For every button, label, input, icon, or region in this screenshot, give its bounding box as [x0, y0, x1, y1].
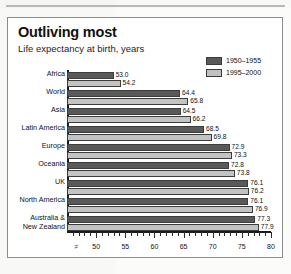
- bar-value-label: 76.1: [250, 179, 263, 186]
- x-tick-minor: [259, 232, 260, 236]
- bar-series-2: [67, 152, 232, 159]
- bar-value-label: 76.9: [255, 205, 268, 212]
- bar-value-label: 66.2: [193, 115, 206, 122]
- x-tick-minor: [195, 232, 196, 236]
- bar-series-1: [67, 90, 180, 97]
- x-tick-minor: [114, 232, 115, 236]
- x-tick-minor: [236, 232, 237, 236]
- bar-group: 72.873.8: [67, 160, 284, 178]
- bar-series-1: [67, 162, 229, 169]
- x-tick-minor: [265, 232, 266, 236]
- bar-value-label: 64.5: [183, 107, 196, 114]
- bar-row: UK76.176.2: [8, 178, 284, 196]
- x-tick-minor: [160, 232, 161, 236]
- x-tick-major: [213, 232, 214, 238]
- plot-area: Africa53.054.2World64.465.8Asia64.566.2L…: [8, 18, 284, 259]
- bar-group: 76.176.9: [67, 196, 284, 214]
- bar-row: Oceania72.873.8: [8, 160, 284, 178]
- x-tick-minor: [224, 232, 225, 236]
- x-tick-label: 50: [92, 243, 100, 250]
- bar-group: 64.566.2: [67, 106, 284, 124]
- bar-value-label: 54.2: [123, 79, 136, 86]
- bar-row: Europe72.973.3: [8, 142, 284, 160]
- bar-series-2: [67, 206, 253, 213]
- bar-rows: Africa53.054.2World64.465.8Asia64.566.2L…: [8, 70, 284, 232]
- bar-series-1: [67, 144, 230, 151]
- bar-value-label: 76.2: [251, 187, 264, 194]
- bar-value-label: 53.0: [116, 71, 129, 78]
- x-tick-major: [125, 232, 126, 238]
- bar-series-2: [67, 116, 191, 123]
- x-tick-major: [96, 232, 97, 238]
- x-tick-major: [271, 232, 272, 238]
- x-tick-major: [184, 232, 185, 238]
- x-tick-minor: [166, 232, 167, 236]
- bar-value-label: 72.9: [232, 143, 245, 150]
- bar-row: Australia & New Zealand77.377.9: [8, 214, 284, 232]
- x-tick-label: 70: [209, 243, 217, 250]
- x-tick-minor: [178, 232, 179, 236]
- x-tick-minor: [73, 232, 74, 236]
- bar-series-1: [67, 108, 181, 115]
- chart-page: Outliving most Life expectancy at birth,…: [0, 0, 291, 274]
- x-tick-minor: [207, 232, 208, 236]
- bar-group: 64.465.8: [67, 88, 284, 106]
- bar-group: 72.973.3: [67, 142, 284, 160]
- bar-series-2: [67, 80, 121, 87]
- category-label: North America: [10, 196, 65, 205]
- bar-series-1: [67, 126, 204, 133]
- x-tick-minor: [79, 232, 80, 236]
- bar-group: 77.377.9: [67, 214, 284, 232]
- x-tick-minor: [90, 232, 91, 236]
- bar-row: Asia64.566.2: [8, 106, 284, 124]
- x-tick-minor: [137, 232, 138, 236]
- bar-series-1: [67, 72, 114, 79]
- x-tick-minor: [248, 232, 249, 236]
- bar-value-label: 77.9: [261, 223, 274, 230]
- x-tick-minor: [84, 232, 85, 236]
- bar-series-2: [67, 224, 259, 231]
- x-tick-minor: [254, 232, 255, 236]
- x-tick-minor: [143, 232, 144, 236]
- x-tick-label: 55: [121, 243, 129, 250]
- category-label: Australia & New Zealand: [10, 214, 65, 231]
- bar-series-1: [67, 198, 248, 205]
- category-label: Africa: [10, 70, 65, 79]
- bar-series-2: [67, 188, 249, 195]
- x-tick-label: 80: [267, 243, 275, 250]
- bar-value-label: 73.8: [237, 169, 250, 176]
- category-label: UK: [10, 178, 65, 187]
- category-label: Europe: [10, 142, 65, 151]
- x-tick-minor: [131, 232, 132, 236]
- x-tick-minor: [230, 232, 231, 236]
- bar-series-1: [67, 216, 255, 223]
- bar-value-label: 68.5: [206, 125, 219, 132]
- x-tick-minor: [119, 232, 120, 236]
- bar-row: Latin America68.569.8: [8, 124, 284, 142]
- x-tick-minor: [149, 232, 150, 236]
- bar-group: 68.569.8: [67, 124, 284, 142]
- bar-series-2: [67, 134, 212, 141]
- bar-value-label: 65.8: [190, 97, 203, 104]
- x-tick-label: 75: [238, 243, 246, 250]
- x-tick-minor: [172, 232, 173, 236]
- bar-group: 76.176.2: [67, 178, 284, 196]
- category-label: Latin America: [10, 124, 65, 133]
- x-tick-minor: [189, 232, 190, 236]
- bar-series-2: [67, 170, 235, 177]
- bar-series-2: [67, 98, 188, 105]
- bar-row: Africa53.054.2: [8, 70, 284, 88]
- bar-value-label: 72.8: [231, 161, 244, 168]
- bar-series-1: [67, 180, 248, 187]
- bar-row: World64.465.8: [8, 88, 284, 106]
- x-tick-major: [154, 232, 155, 238]
- category-label: Asia: [10, 106, 65, 115]
- x-tick-minor: [219, 232, 220, 236]
- bar-value-label: 76.1: [250, 197, 263, 204]
- x-tick-label: 60: [151, 243, 159, 250]
- category-label: Oceania: [10, 160, 65, 169]
- bar-value-label: 73.3: [234, 151, 247, 158]
- x-tick-minor: [201, 232, 202, 236]
- bar-group: 53.054.2: [67, 70, 284, 88]
- category-label: World: [10, 88, 65, 97]
